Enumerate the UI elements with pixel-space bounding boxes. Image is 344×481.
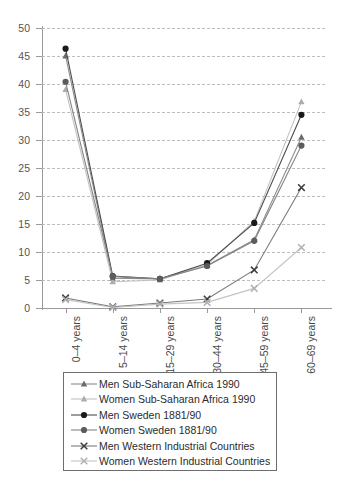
- y-axis-tick-label: 15: [0, 219, 30, 229]
- data-point: [251, 218, 257, 224]
- gridline: [42, 140, 325, 141]
- x-axis-tick-mark: [254, 308, 255, 313]
- data-point: [157, 301, 164, 308]
- y-axis-tick-mark: [36, 308, 42, 309]
- data-point: [298, 99, 304, 105]
- data-point: [157, 276, 163, 282]
- legend-marker-triangle-icon: [69, 377, 99, 391]
- legend-label: Men Western Industrial Countries: [99, 440, 255, 452]
- legend-marker-circle-icon: [69, 423, 99, 437]
- data-point: [62, 86, 68, 92]
- y-axis-tick-label: 30: [0, 135, 30, 145]
- y-axis-tick-label: 45: [0, 51, 30, 61]
- data-point: [251, 285, 258, 292]
- gridline: [42, 112, 325, 113]
- gridline: [42, 84, 325, 85]
- x-axis-tick-label: 5–14 years: [117, 316, 129, 368]
- x-axis-tick-mark: [301, 308, 302, 313]
- x-axis-tick-label: 15–29 years: [164, 316, 176, 374]
- data-point: [298, 184, 305, 191]
- data-point: [251, 236, 257, 242]
- data-point: [110, 274, 116, 280]
- line-chart: 05101520253035404550 0–4 years5–14 years…: [0, 0, 344, 481]
- gridline: [42, 224, 325, 225]
- series-line: [66, 248, 302, 308]
- data-point: [251, 220, 257, 226]
- data-point: [204, 296, 211, 303]
- y-axis-tick-label: 25: [0, 163, 30, 173]
- x-axis-line: [36, 308, 332, 309]
- x-axis-tick-label: 30–44 years: [211, 316, 223, 374]
- data-point: [204, 260, 210, 266]
- legend-item[interactable]: Women Sub-Saharan Africa 1990: [64, 392, 276, 408]
- legend-label: Women Sub-Saharan Africa 1990: [99, 393, 255, 405]
- x-axis-tick-mark: [113, 308, 114, 313]
- y-axis-tick-label: 50: [0, 23, 30, 33]
- data-point: [62, 295, 69, 302]
- series-4: [62, 184, 304, 310]
- x-axis-tick-mark: [207, 308, 208, 313]
- data-point: [62, 296, 69, 303]
- legend-item[interactable]: Women Western Industrial Countries: [64, 454, 276, 470]
- y-axis-tick-label: 0: [0, 303, 30, 313]
- gridline: [42, 252, 325, 253]
- x-axis-tick-label: 0–4 years: [70, 316, 82, 362]
- gridline: [42, 168, 325, 169]
- data-point: [298, 134, 304, 140]
- y-axis-tick-label: 35: [0, 107, 30, 117]
- chart-legend: Men Sub-Saharan Africa 1990Women Sub-Sah…: [63, 372, 277, 471]
- gridline: [42, 28, 325, 29]
- gridline: [42, 196, 325, 197]
- series-1: [62, 86, 304, 284]
- legend-label: Men Sweden 1881/90: [99, 409, 201, 421]
- series-0: [62, 53, 304, 282]
- legend-marker-x-icon: [69, 454, 99, 468]
- legend-marker-x-icon: [69, 439, 99, 453]
- series-5: [62, 244, 304, 311]
- x-axis-tick-label: 60–69 years: [305, 316, 317, 374]
- data-point: [157, 276, 163, 282]
- legend-marker-triangle-icon: [69, 392, 99, 406]
- data-point: [298, 143, 304, 149]
- data-point: [62, 46, 68, 52]
- legend-item[interactable]: Men Sub-Saharan Africa 1990: [64, 376, 276, 392]
- series-line: [66, 188, 302, 307]
- data-point: [204, 262, 210, 268]
- legend-item[interactable]: Men Western Industrial Countries: [64, 438, 276, 454]
- y-axis-tick-label: 5: [0, 275, 30, 285]
- x-axis-tick-mark: [160, 308, 161, 313]
- gridline: [42, 56, 325, 57]
- data-point: [251, 238, 257, 244]
- data-point: [204, 261, 210, 267]
- gridline: [42, 280, 325, 281]
- data-point: [251, 267, 258, 274]
- legend-label: Women Sweden 1881/90: [99, 424, 217, 436]
- x-axis-tick-mark: [66, 308, 67, 313]
- legend-label: Women Western Industrial Countries: [99, 455, 270, 467]
- data-point: [110, 273, 116, 279]
- legend-item[interactable]: Men Sweden 1881/90: [64, 407, 276, 423]
- series-2: [62, 46, 304, 282]
- x-axis-tick-label: 45–59 years: [258, 316, 270, 374]
- data-point: [298, 244, 305, 251]
- y-axis-tick-label: 40: [0, 79, 30, 89]
- data-point: [157, 300, 164, 307]
- legend-item[interactable]: Women Sweden 1881/90: [64, 423, 276, 439]
- legend-marker-circle-icon: [69, 408, 99, 422]
- y-axis-tick-label: 20: [0, 191, 30, 201]
- legend-label: Men Sub-Saharan Africa 1990: [99, 378, 240, 390]
- data-point: [204, 263, 210, 269]
- y-axis-tick-label: 10: [0, 247, 30, 257]
- data-point: [204, 299, 211, 306]
